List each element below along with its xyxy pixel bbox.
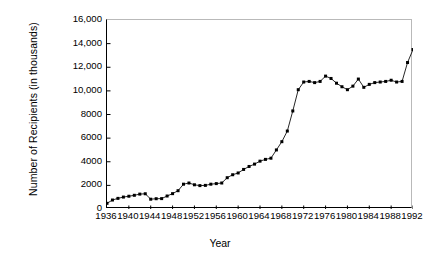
y-tick-label: 4000 [0,156,102,166]
data-point [390,79,393,82]
x-tick-label: 1992 [392,211,432,221]
data-plot [107,20,413,209]
data-point [384,80,387,83]
data-point [401,80,404,83]
y-tick-label: 8000 [0,109,102,119]
y-axis-ticks [107,44,111,186]
data-point [107,202,109,205]
chart-container: Number of Recipients (in thousands) 0200… [0,0,440,261]
data-point [209,183,212,186]
data-point [351,85,354,88]
data-point [269,157,272,160]
data-point [127,195,130,198]
data-point [182,183,185,186]
data-point [335,82,338,85]
data-point [248,165,251,168]
data-point [253,163,256,166]
data-point [204,184,207,187]
data-point [155,197,158,200]
data-point [291,109,294,112]
data-point [237,171,240,174]
data-point [193,183,196,186]
data-point [286,130,289,133]
data-point [297,88,300,91]
data-point [133,194,136,197]
data-point [111,199,114,202]
data-point [379,81,382,84]
data-point [406,61,409,64]
y-tick-label: 12,000 [0,61,102,71]
data-point [308,80,311,83]
data-point [226,176,229,179]
data-point [215,182,218,185]
data-point [362,86,365,89]
data-point [116,197,119,200]
data-point [122,196,125,199]
plot-area [106,19,412,208]
data-point [373,81,376,84]
data-point [340,85,343,88]
y-tick-label: 16,000 [0,14,102,24]
data-point [264,158,267,161]
data-point [412,48,414,51]
y-tick-label: 2000 [0,179,102,189]
y-tick-label: 14,000 [0,38,102,48]
data-point [177,189,180,192]
data-point [302,81,305,84]
data-point [330,77,333,80]
data-point [149,198,152,201]
x-axis-ticks [129,206,413,210]
data-point [346,88,349,91]
data-point [259,160,262,163]
series-line [107,50,413,204]
series-markers [107,48,413,205]
x-axis-title: Year [0,237,440,249]
data-point [313,81,316,84]
data-point [160,197,163,200]
data-point [220,182,223,185]
data-point [171,192,174,195]
data-point [368,83,371,86]
data-point [198,184,201,187]
data-point [138,193,141,196]
data-point [231,173,234,176]
data-point [395,81,398,84]
data-point [319,80,322,83]
data-point [166,195,169,198]
y-tick-label: 6000 [0,132,102,142]
data-point [144,192,147,195]
y-tick-label: 10,000 [0,85,102,95]
data-point [357,78,360,81]
data-point [275,148,278,151]
data-point [324,75,327,78]
data-point [242,168,245,171]
data-point [280,140,283,143]
data-point [187,182,190,185]
